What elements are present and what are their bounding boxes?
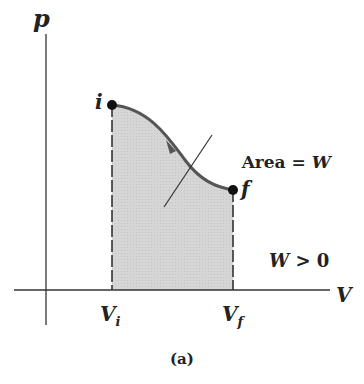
vf-label: Vf	[222, 302, 243, 329]
pv-diagram: p V i f Vi Vf Area = W W > 0 (a)	[0, 0, 364, 384]
diagram-graphics	[0, 0, 364, 384]
point-i	[107, 100, 117, 110]
figure-caption: (a)	[170, 350, 194, 368]
axis-y-label: p	[33, 4, 50, 33]
work-area	[112, 105, 233, 290]
work-condition-label: W > 0	[246, 229, 329, 292]
area-label: Area = W	[220, 132, 331, 192]
axis-x-label: V	[336, 283, 352, 307]
point-i-label: i	[95, 90, 103, 114]
vi-label: Vi	[100, 302, 120, 329]
